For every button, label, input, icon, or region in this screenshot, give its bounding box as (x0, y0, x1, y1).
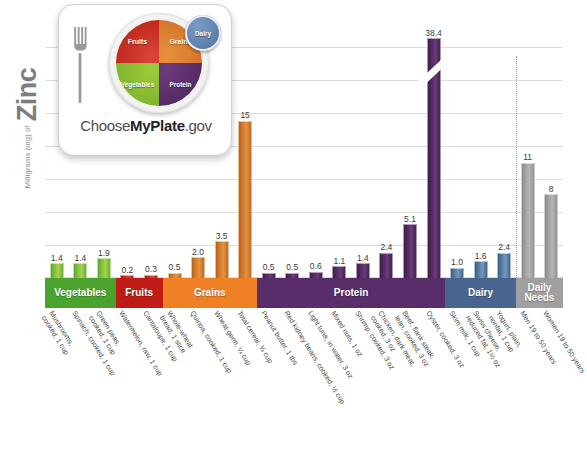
myplate-wordmark: ChooseMyPlate.gov (59, 117, 233, 134)
plate-label-vegetables: Vegetables (121, 81, 154, 88)
bar-value-label: 2.4 (498, 242, 510, 252)
bar[interactable]: 15 (238, 121, 252, 279)
bar-slot: 5.1 (403, 224, 417, 278)
bar-value-label: 0.5 (263, 262, 275, 272)
bar[interactable]: 1.1 (332, 266, 346, 278)
category-band-vegetables: Vegetables (45, 278, 116, 308)
bar-value-label: 1.4 (74, 253, 86, 263)
bar-value-label: 8 (549, 184, 554, 194)
category-band-fruits: Fruits (116, 278, 163, 308)
bar-value-label: 0.5 (286, 262, 298, 272)
bar-value-label: 38.4 (425, 28, 442, 38)
fork-icon (73, 27, 87, 103)
y-axis-title: Milligrams (mg) of Zinc (7, 13, 47, 243)
plate-quadrant-protein: Protein (159, 63, 202, 106)
bar-value-label: 1.1 (333, 256, 345, 266)
bar-value-label: 0.3 (145, 264, 157, 274)
myplate-plate-graphic: Fruits Grains Vegetables Protein Dairy (109, 13, 221, 117)
x-axis-label-line: Women 19 to 50 years (541, 309, 587, 375)
bar[interactable]: 1.9 (97, 258, 111, 278)
x-axis-label: Women 19 to 50 years (541, 309, 587, 375)
bar-value-label: 1.0 (451, 257, 463, 267)
bar-slot: 2.4 (497, 253, 511, 278)
bar[interactable]: 11 (521, 163, 535, 279)
bar-value-label: 0.6 (310, 261, 322, 271)
bar[interactable]: 38.4 (427, 38, 441, 278)
bar-slot: 15 (238, 121, 252, 279)
bar-value-label: 5.1 (404, 214, 416, 224)
bar-slot: 1.1 (332, 266, 346, 278)
x-axis-label: Quinoa, cooked, 1 cup (188, 309, 234, 375)
bar-slot: 3.5 (215, 241, 229, 278)
wordmark-gov: .gov (185, 117, 212, 134)
bar[interactable]: 1.4 (356, 263, 370, 278)
bar-slot: 1.4 (356, 263, 370, 278)
bar-slot: 11 (521, 163, 535, 279)
myplate-logo-card: Fruits Grains Vegetables Protein Dairy C… (58, 4, 232, 156)
bar[interactable]: 1.0 (450, 268, 464, 279)
bar-value-label: 0.2 (121, 265, 133, 275)
bar-value-label: 2.0 (192, 247, 204, 257)
bar-slot: 1.9 (97, 258, 111, 278)
bar-value-label: 1.4 (357, 253, 369, 263)
category-band-dairy: Dairy (445, 278, 516, 308)
plate-label-dairy: Dairy (195, 30, 211, 37)
bar[interactable]: 2.0 (191, 257, 205, 278)
bar-value-label: 1.4 (51, 253, 63, 263)
bar-slot: 1.4 (73, 263, 87, 278)
bar[interactable]: 1.4 (73, 263, 87, 278)
x-axis-label-line: Quinoa, cooked, 1 cup (188, 309, 234, 375)
plate-label-protein: Protein (169, 81, 191, 88)
bar[interactable]: 2.4 (379, 253, 393, 278)
bar-value-label: 2.4 (380, 242, 392, 252)
bar-value-label: 3.5 (216, 231, 228, 241)
bar[interactable]: 8 (544, 194, 558, 278)
bar-slot: 2.0 (191, 257, 205, 278)
wordmark-myplate: MyPlate (130, 117, 185, 134)
bar-slot: 2.4 (379, 253, 393, 278)
bar-value-label: 1.9 (98, 248, 110, 258)
wordmark-choose: Choose (80, 117, 130, 134)
plate-quadrant-fruits: Fruits (116, 20, 159, 63)
bar-value-label: 1.6 (475, 251, 487, 261)
bar-slot: 1.0 (450, 268, 464, 279)
category-band-daily-needs: DailyNeeds (516, 278, 563, 308)
bar-value-label: 0.5 (169, 262, 181, 272)
category-band-protein: Protein (257, 278, 445, 308)
bar-value-label: 11 (523, 152, 532, 162)
plate-label-fruits: Fruits (128, 38, 147, 45)
bar-value-label: 15 (240, 110, 249, 120)
bar[interactable]: 3.5 (215, 241, 229, 278)
bar[interactable]: 5.1 (403, 224, 417, 278)
y-axis-unit-label: Milligrams (mg) of (23, 125, 32, 188)
y-axis-nutrient-label: Zinc (12, 68, 43, 122)
bar[interactable]: 1.6 (474, 261, 488, 278)
category-band-grains: Grains (163, 278, 257, 308)
plate-quadrant-vegetables: Vegetables (116, 63, 159, 106)
bar-slot: 38.4 (427, 38, 441, 278)
bar-slot: 1.6 (474, 261, 488, 278)
plate-circle-dairy: Dairy (185, 15, 221, 51)
bar[interactable]: 2.4 (497, 253, 511, 278)
x-axis-labels: Mushrooms,cooked, 1 cupSpinach, cooked, … (45, 309, 563, 449)
category-band: VegetablesFruitsGrainsProteinDairyDailyN… (45, 278, 563, 308)
bar-slot: 8 (544, 194, 558, 278)
bar[interactable]: 1.4 (50, 263, 64, 278)
bar-slot: 1.4 (50, 263, 64, 278)
